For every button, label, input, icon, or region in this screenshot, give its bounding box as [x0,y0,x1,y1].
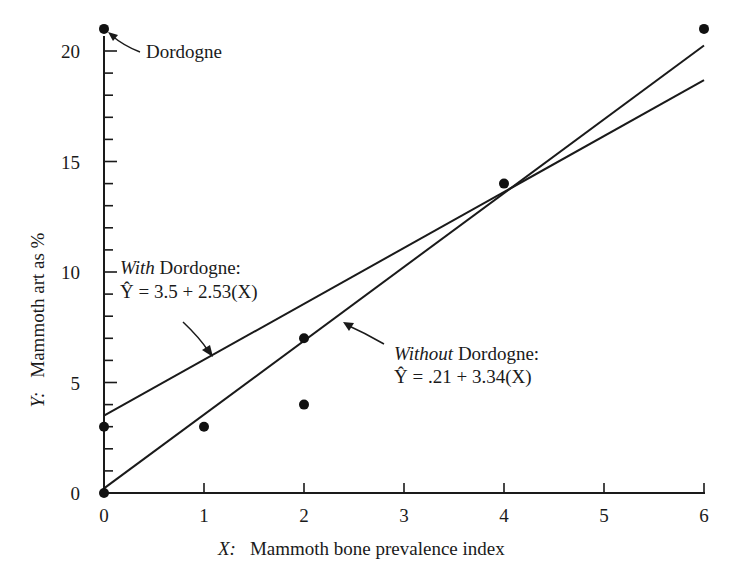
x-tick-label: 4 [499,505,509,526]
x-tick-label: 0 [99,505,109,526]
y-tick-label: 0 [71,483,81,504]
y-axis-title: Y:Mammoth art as % [27,232,48,407]
without-arrow-icon [347,325,384,344]
data-point [699,24,709,34]
y-tick-label: 5 [71,373,81,394]
x-tick-label: 2 [299,505,309,526]
x-tick-label: 5 [599,505,609,526]
data-point [199,422,209,432]
x-tick-label: 1 [199,505,209,526]
with-arrow-icon [183,322,209,352]
without-dordogne-label: Without Dordogne: [394,343,539,364]
arrowhead-icon [343,322,354,331]
without-dordogne-equation: Ŷ = .21 + 3.34(X) [394,366,532,388]
data-point [299,333,309,343]
data-point [299,400,309,410]
y-tick-label: 20 [61,41,80,62]
scatter-plot: 051015200123456 Dordogne With Dordogne: … [0,0,731,585]
dordogne-label: Dordogne [146,41,222,62]
data-point [99,24,109,34]
with-dordogne-equation: Ŷ = 3.5 + 2.53(X) [120,281,258,303]
arrowhead-icon [202,345,213,357]
data-point [99,488,109,498]
data-point [99,422,109,432]
with-dordogne-label: With Dordogne: [120,257,241,278]
y-tick-label: 15 [61,152,80,173]
x-axis-title: X:Mammoth bone prevalence index [217,538,505,559]
x-tick-label: 6 [699,505,709,526]
y-tick-label: 10 [61,262,80,283]
x-tick-label: 3 [399,505,409,526]
data-point [499,179,509,189]
